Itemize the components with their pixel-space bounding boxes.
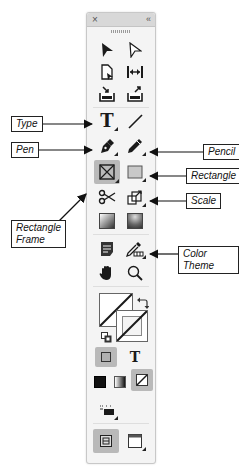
- callout-scale: Scale: [186, 193, 221, 209]
- callout-rectangle-frame-line1: Rectangle: [16, 222, 61, 234]
- callout-pen: Pen: [11, 142, 39, 158]
- callout-type: Type: [11, 116, 43, 132]
- callout-rectangle-frame: Rectangle Frame: [11, 220, 66, 248]
- callout-rectangle-frame-line2: Frame: [16, 234, 61, 246]
- callout-rectangle: Rectangle: [186, 168, 239, 184]
- callout-color-theme: Color Theme: [178, 246, 239, 274]
- callout-pencil: Pencil: [203, 144, 239, 160]
